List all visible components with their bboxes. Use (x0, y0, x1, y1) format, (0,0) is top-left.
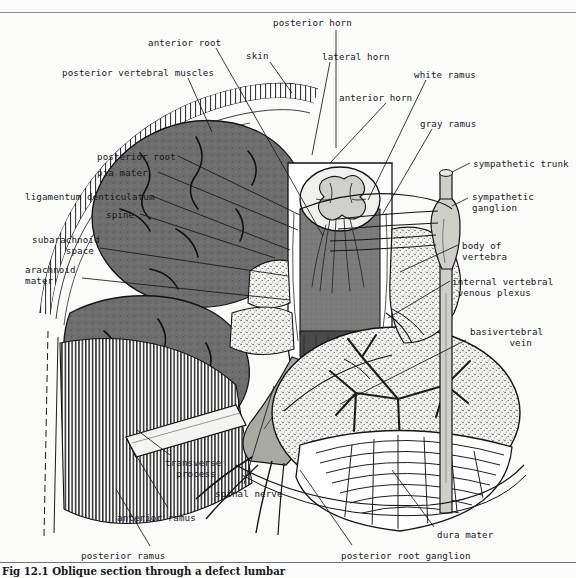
label-posterior-vertebral-muscles: posterior vertebral muscles (62, 68, 214, 79)
label-anterior-horn: anterior horn (339, 93, 412, 104)
label-arachnoid-mater: arachnoid mater (25, 265, 76, 286)
label-gray-ramus: gray ramus (420, 119, 476, 130)
label-pia-mater: pia mater (97, 168, 148, 179)
label-posterior-horn: posterior horn (273, 18, 352, 29)
label-posterior-root-ganglion: posterior root ganglion (341, 551, 471, 562)
label-spinal-nerve: spinal nerve (215, 489, 283, 500)
label-anterior-root: anterior root (148, 38, 221, 49)
label-basivertebral-vein: basivertebral vein (470, 327, 543, 348)
label-spine: spine (106, 210, 134, 221)
label-white-ramus: white ramus (414, 70, 476, 81)
label-body-of-vertebra: body of vertebra (462, 241, 507, 262)
label-skin: skin (246, 51, 269, 62)
leader-lateral-horn (312, 62, 330, 155)
label-subarachnoid-space: subarachnoid space (32, 235, 100, 256)
label-sympathetic-trunk: sympathetic trunk (473, 159, 569, 170)
label-transverse-process: transverse process (165, 458, 221, 479)
figure-caption: Fig 12.1 Oblique section through a defec… (2, 565, 574, 578)
label-posterior-ramus: posterior ramus (81, 551, 165, 562)
label-lateral-horn: lateral horn (322, 52, 390, 63)
figure-page: posterior hornanterior rootskinlateral h… (0, 0, 576, 578)
bottom-divider (0, 562, 576, 563)
label-ligamentum-denticulatum: ligamentum denticulatum (25, 192, 155, 203)
label-dura-mater: dura mater (437, 530, 493, 541)
label-posterior-root: posterior root (97, 152, 176, 163)
leader-anterior-horn (330, 103, 386, 163)
label-sympathetic-ganglion: sympathetic ganglion (472, 192, 534, 213)
vertebral-body (272, 327, 520, 531)
label-anterior-ramus: anterior ramus (117, 513, 196, 524)
leader-sympathetic-trunk (452, 163, 470, 172)
label-internal-vertebral-venous-plexus: internal vertebral venous plexus (452, 277, 553, 298)
